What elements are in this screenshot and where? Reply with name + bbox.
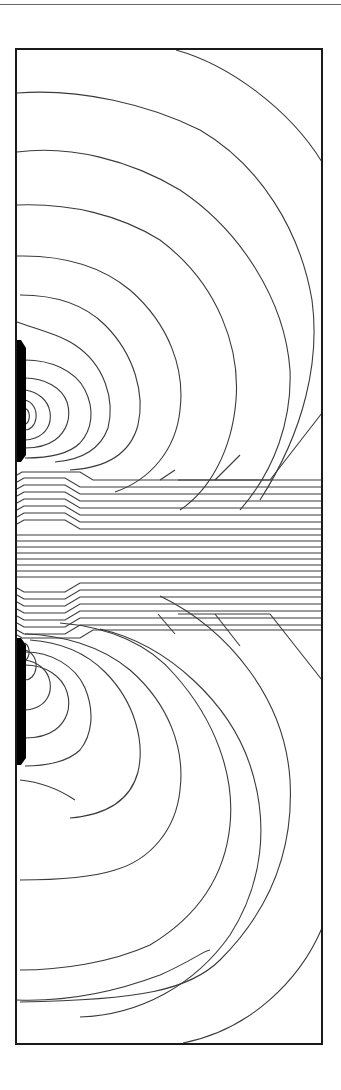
lower-bent-lines — [17, 583, 322, 638]
contour-plot — [0, 0, 341, 1090]
upper-bent-lines — [17, 472, 322, 529]
straight-channel-lines — [17, 535, 322, 577]
lower-contours — [17, 596, 322, 1043]
lower-electrode — [16, 638, 26, 765]
upper-electrode — [16, 340, 26, 462]
upper-contours — [17, 50, 322, 510]
